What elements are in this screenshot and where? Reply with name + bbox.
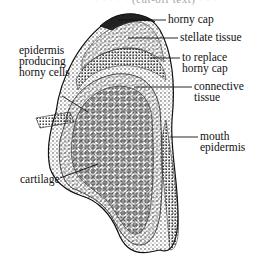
label-horny-cap: horny cap: [168, 14, 214, 25]
label-to-replace-horny-cap: to replace horny cap: [182, 52, 228, 74]
label-connective-tissue: connective tissue: [194, 81, 244, 103]
label-epidermis-producing-horny-cells: epidermis producing horny cells: [19, 45, 70, 78]
label-mouth-epidermis: mouth epidermis: [200, 131, 245, 153]
label-cartilage: cartilage: [20, 174, 60, 185]
label-stellate-tissue: stellate tissue: [180, 32, 242, 43]
